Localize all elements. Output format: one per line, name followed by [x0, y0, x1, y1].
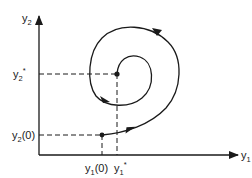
y1-axis-label: y1 — [241, 149, 251, 164]
y1-initial-label: y1(0) — [85, 162, 108, 177]
arrow-icon — [100, 96, 110, 103]
arrow-icon — [125, 126, 137, 134]
phase-plane-diagram: y2 y1 y2* y2(0) y1(0) y1* — [0, 0, 252, 178]
y1-star-label: y1* — [114, 160, 127, 177]
y2-star-label: y2* — [13, 66, 26, 83]
equilibrium-point — [114, 71, 119, 76]
guide-lines — [39, 74, 117, 155]
y2-axis-label: y2 — [22, 12, 32, 27]
trajectory-arrows — [100, 28, 162, 133]
y2-initial-label: y2(0) — [12, 129, 35, 144]
spiral-trajectory — [90, 27, 179, 135]
initial-point — [100, 133, 105, 138]
